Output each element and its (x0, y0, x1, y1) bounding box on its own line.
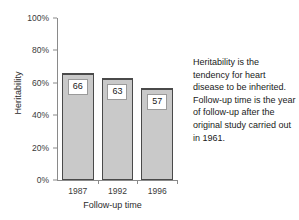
bar-slot: 57 (141, 18, 173, 180)
y-tick-label: 40% (32, 110, 49, 120)
x-tick-mark (137, 180, 138, 184)
x-axis-line (57, 180, 177, 181)
bar-slot: 63 (102, 18, 134, 180)
y-tick-label: 20% (32, 143, 49, 153)
x-tick-mark (98, 180, 99, 184)
bar-value-label: 66 (68, 79, 88, 95)
chart-figure: Heritability 0%20%40%60%80%100% 666357 F… (0, 0, 299, 220)
plot-area: 666357 (58, 18, 177, 180)
y-tick-label: 80% (32, 45, 49, 55)
x-tick-mark (177, 180, 178, 184)
y-axis-ticks: 0%20%40%60%80%100% (0, 0, 57, 220)
x-axis-title: Follow-up time (40, 200, 185, 210)
y-tick-label: 60% (32, 78, 49, 88)
chart-annotation-text: Heritability is the tendency for heart d… (193, 56, 297, 144)
bar-value-label: 63 (107, 84, 127, 100)
x-tick-label: 1992 (108, 186, 127, 196)
y-tick-label: 0% (37, 175, 49, 185)
y-tick-label: 100% (27, 13, 49, 23)
x-tick-label: 1987 (68, 186, 87, 196)
x-tick-label: 1996 (148, 186, 167, 196)
bar-slot: 66 (62, 18, 94, 180)
bar-value-label: 57 (147, 94, 167, 110)
